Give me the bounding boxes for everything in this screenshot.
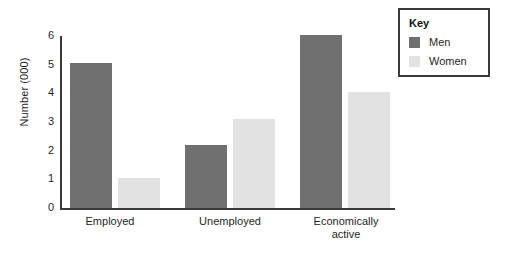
y-axis-title: Number (000): [18, 32, 30, 152]
y-tick-4: 4: [38, 87, 54, 98]
x-label-employed-line1: Employed: [60, 215, 160, 228]
bar-economically-active-men[interactable]: [300, 35, 342, 208]
legend-item-men[interactable]: Men: [409, 36, 480, 48]
plot-area: [60, 30, 395, 208]
legend: Key Men Women: [398, 8, 490, 77]
legend-label-men: Men: [429, 36, 450, 48]
y-axis-tick-labels: 6 5 4 3 2 1 0: [36, 30, 54, 214]
y-tick-2: 2: [38, 145, 54, 156]
legend-swatch-women-icon: [409, 56, 420, 67]
legend-item-women[interactable]: Women: [409, 55, 480, 67]
legend-title: Key: [409, 17, 480, 29]
y-tick-1: 1: [38, 173, 54, 184]
bar-unemployed-women[interactable]: [233, 119, 275, 208]
y-tick-6: 6: [38, 30, 54, 41]
x-label-economically-active-line1: Economically: [290, 215, 402, 228]
bar-employed-women[interactable]: [118, 178, 160, 208]
y-tick-3: 3: [38, 116, 54, 127]
x-label-employed: Employed: [60, 215, 160, 228]
y-tick-0: 0: [38, 202, 54, 213]
bar-economically-active-women[interactable]: [348, 92, 390, 208]
x-label-unemployed: Unemployed: [175, 215, 285, 228]
bar-employed-men[interactable]: [70, 63, 112, 208]
x-label-unemployed-line1: Unemployed: [175, 215, 285, 228]
y-tick-5: 5: [38, 59, 54, 70]
legend-swatch-men-icon: [409, 37, 420, 48]
bar-chart: Number (000) 6 5 4 3 2 1 0 Employed Unem…: [0, 0, 505, 253]
y-axis-line: [60, 36, 62, 208]
x-label-economically-active: Economically active: [290, 215, 402, 241]
x-label-economically-active-line2: active: [290, 228, 402, 241]
bar-unemployed-men[interactable]: [185, 145, 227, 208]
legend-label-women: Women: [429, 55, 467, 67]
x-axis-line: [60, 208, 395, 210]
